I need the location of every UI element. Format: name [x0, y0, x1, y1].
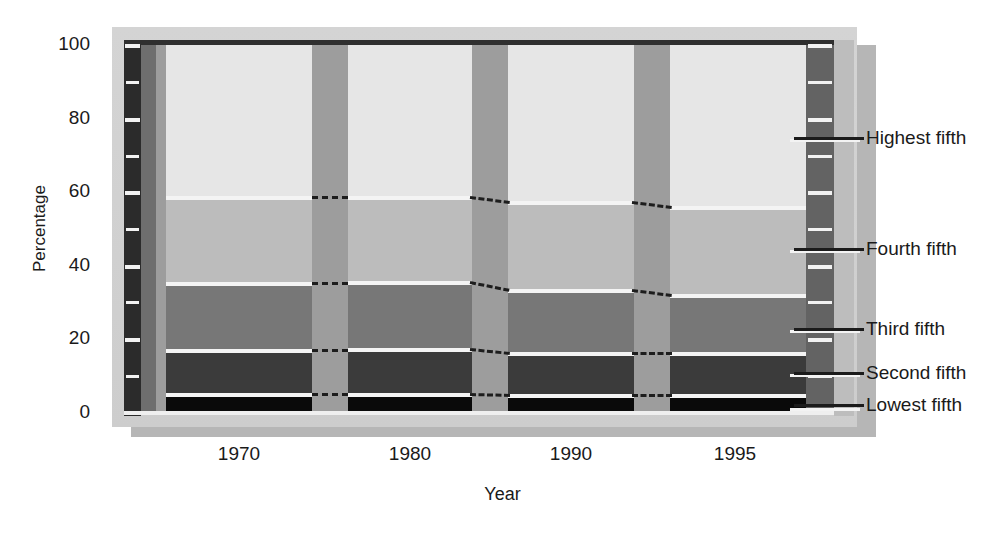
plot-baseline	[124, 411, 834, 415]
segment-1980-lowest-fifth[interactable]	[348, 393, 472, 412]
y-tick-70	[126, 155, 139, 158]
right-frame-band	[834, 40, 854, 416]
segment-1995-fourth-fifth[interactable]	[670, 206, 806, 294]
y-tick-20	[125, 338, 140, 342]
legend-leader-white-lowest	[790, 408, 860, 411]
bar-1970[interactable]	[166, 44, 312, 412]
y-tick-label-0: 0	[38, 402, 90, 421]
legend-leader-second-fifth	[794, 372, 864, 375]
bar-1990[interactable]	[508, 44, 634, 412]
y-tick-label-20: 20	[38, 328, 90, 347]
segment-1980-highest-fifth[interactable]	[348, 44, 472, 196]
connector-1990-1995-lowest	[632, 394, 672, 397]
x-tick-label-1980: 1980	[365, 443, 455, 465]
y-axis-inner-band	[141, 44, 156, 412]
chart-figure: 100 80 60 40 20 0 Percentage 1970 1980 1…	[0, 0, 1005, 541]
segment-1970-lowest-fifth[interactable]	[166, 393, 312, 412]
y-tick-30	[126, 301, 139, 304]
legend-label-lowest-fifth[interactable]: Lowest fifth	[866, 394, 962, 416]
y-tick-right-30	[808, 301, 832, 304]
legend-leader-lowest-fifth	[794, 404, 864, 407]
segment-1970-third-fifth[interactable]	[166, 282, 312, 349]
connector-1970-1980-second	[312, 349, 348, 352]
segment-1995-highest-fifth[interactable]	[670, 44, 806, 206]
segment-1990-lowest-fifth[interactable]	[508, 394, 634, 412]
y-tick-right-100	[808, 44, 832, 48]
segment-1990-highest-fifth[interactable]	[508, 44, 634, 201]
x-axis-title: Year	[0, 484, 1005, 505]
x-tick-label-1995: 1995	[690, 443, 780, 465]
legend-label-highest-fifth[interactable]: Highest fifth	[866, 127, 966, 149]
bar-1980[interactable]	[348, 44, 472, 412]
segment-1980-second-fifth[interactable]	[348, 348, 472, 393]
bar-1995[interactable]	[670, 44, 806, 412]
y-axis-title: Percentage	[30, 185, 50, 272]
legend-label-fourth-fifth[interactable]: Fourth fifth	[866, 238, 957, 260]
y-tick-90	[126, 81, 139, 84]
bar-gap-4	[634, 44, 670, 412]
y-tick-right-80	[808, 118, 832, 122]
y-tick-right-90	[808, 81, 832, 84]
y-tick-label-80: 80	[38, 108, 90, 127]
y-tick-right-20	[808, 338, 832, 342]
segment-1995-third-fifth[interactable]	[670, 294, 806, 352]
y-tick-10	[126, 375, 139, 378]
connector-1970-1980-third	[312, 282, 348, 285]
bar-gap-2	[312, 44, 348, 412]
legend-leader-fourth-fifth	[794, 248, 864, 251]
bar-gap-3	[472, 44, 508, 412]
segment-1995-lowest-fifth[interactable]	[670, 394, 806, 412]
y-tick-right-60	[808, 191, 832, 195]
y-tick-50	[126, 228, 139, 231]
segment-1995-second-fifth[interactable]	[670, 352, 806, 394]
segment-1970-fourth-fifth[interactable]	[166, 196, 312, 282]
connector-1970-1980-fourth	[312, 196, 348, 199]
connector-1970-1980-lowest	[312, 393, 348, 396]
y-tick-right-70	[808, 155, 832, 158]
legend-label-third-fifth[interactable]: Third fifth	[866, 318, 945, 340]
y-tick-label-100: 100	[38, 34, 90, 53]
segment-1990-second-fifth[interactable]	[508, 352, 634, 394]
legend-label-second-fifth[interactable]: Second fifth	[866, 362, 966, 384]
plot-top-cap	[124, 40, 834, 45]
bar-gap-1	[156, 44, 166, 412]
legend-leader-highest-fifth	[794, 137, 864, 140]
segment-1970-second-fifth[interactable]	[166, 349, 312, 393]
y-tick-100	[125, 44, 140, 48]
x-tick-label-1990: 1990	[526, 443, 616, 465]
y-tick-60	[125, 191, 140, 195]
segment-1990-fourth-fifth[interactable]	[508, 201, 634, 289]
segment-1990-third-fifth[interactable]	[508, 289, 634, 352]
x-tick-label-1970: 1970	[194, 443, 284, 465]
segment-1980-third-fifth[interactable]	[348, 281, 472, 348]
y-tick-40	[125, 265, 140, 269]
y-tick-right-40	[808, 265, 832, 269]
legend-leader-third-fifth	[794, 328, 864, 331]
connector-1990-1995-second	[632, 352, 672, 355]
segment-1980-fourth-fifth[interactable]	[348, 196, 472, 281]
segment-1970-highest-fifth[interactable]	[166, 44, 312, 196]
y-tick-80	[125, 118, 140, 122]
y-tick-right-50	[808, 228, 832, 231]
